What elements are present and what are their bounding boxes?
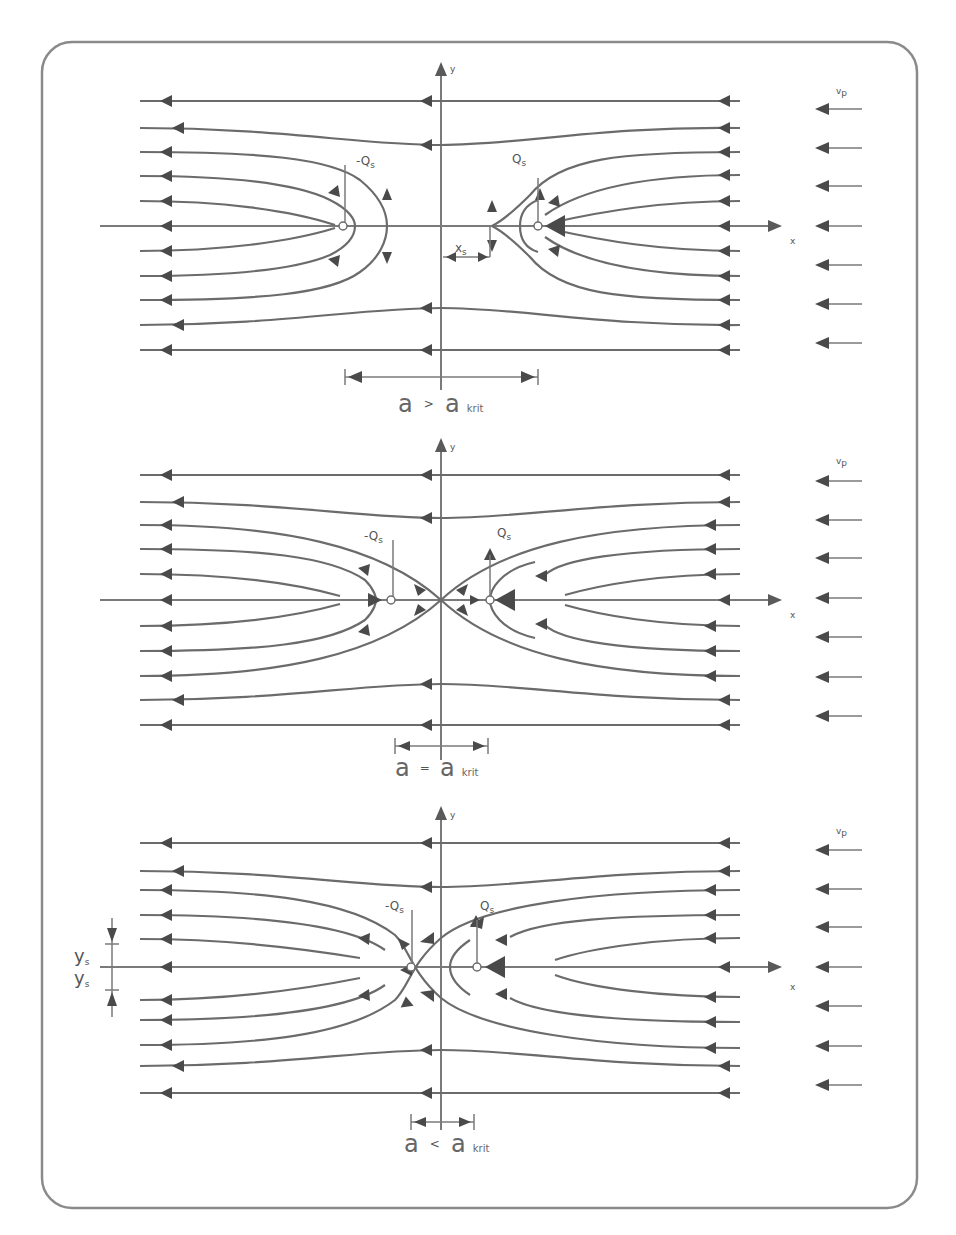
stagnation-label: xs (455, 241, 467, 257)
panel-3: y x (74, 808, 862, 1158)
svg-text:vp: vp (836, 456, 847, 468)
source-label: Qs (480, 899, 494, 915)
x-axis-label: x (790, 610, 796, 620)
ys-upper-label: ys (74, 945, 90, 967)
figure-stage: y x (0, 0, 956, 1235)
panel-2: y x (100, 440, 862, 782)
y-axis-label: y (450, 64, 456, 74)
svg-text:vp: vp (836, 826, 847, 838)
condition-label: a > a krit (398, 390, 483, 418)
parallel-flow-arrows: vp (815, 456, 862, 722)
source-label: Qs (497, 526, 511, 542)
parallel-flow-arrows: vp (815, 826, 862, 1091)
x-axis-label: x (790, 236, 796, 246)
condition-label: a < a krit (404, 1130, 489, 1158)
ys-lower-label: ys (74, 967, 90, 989)
sink-label: -Qs (385, 899, 404, 915)
sink-point (387, 596, 395, 604)
source-point (473, 963, 481, 971)
source-label: Qs (512, 152, 526, 168)
svg-text:vp: vp (836, 86, 847, 98)
y-axis-label: y (450, 810, 456, 820)
sink-point (407, 963, 415, 971)
sink-label: -Qs (364, 529, 383, 545)
condition-label: a = a krit (395, 754, 478, 782)
sink-point (339, 222, 347, 230)
source-point (534, 222, 542, 230)
flow-diagram: y x (0, 0, 956, 1235)
x-axis-label: x (790, 982, 796, 992)
parallel-flow-arrows: vp (815, 86, 862, 349)
sink-label: -Qs (356, 154, 375, 170)
ys-dimension: ys ys (74, 918, 119, 1017)
y-axis-label: y (450, 442, 456, 452)
panel-1: y x (100, 64, 862, 418)
source-point (486, 596, 494, 604)
